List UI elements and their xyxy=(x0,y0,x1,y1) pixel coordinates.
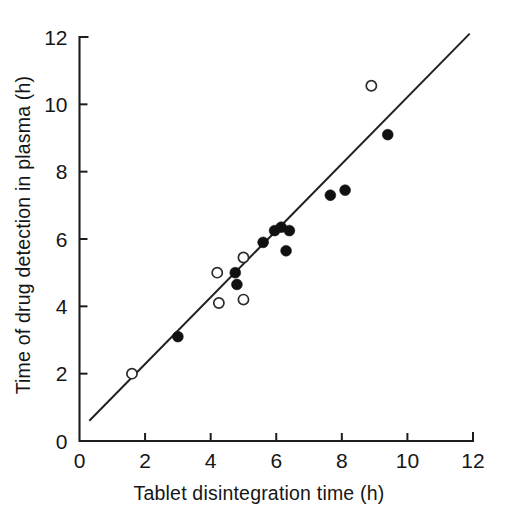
y-tick-label: 2 xyxy=(56,362,68,385)
axis-spines xyxy=(80,37,474,441)
data-point-filled xyxy=(382,129,393,140)
y-tick-label: 4 xyxy=(56,295,68,318)
x-axis-tick-labels: 024681012 xyxy=(74,449,485,472)
y-tick-label: 0 xyxy=(56,430,68,453)
y-axis-title: Time of drug detection in plasma (h) xyxy=(12,76,34,395)
data-point-open xyxy=(366,81,376,91)
data-point-filled xyxy=(284,225,295,236)
x-tick-label: 6 xyxy=(270,449,282,472)
data-point-open xyxy=(214,298,224,308)
x-tick-label: 2 xyxy=(139,449,151,472)
x-axis-title: Tablet disintegration time (h) xyxy=(134,482,385,504)
y-tick-label: 8 xyxy=(56,160,68,183)
scatter-plot-figure: 024681012 024681012 Tablet disintegratio… xyxy=(0,0,517,518)
data-point-open xyxy=(127,369,137,379)
data-point-open xyxy=(238,252,248,262)
data-point-filled xyxy=(230,267,241,278)
x-tick-label: 12 xyxy=(461,449,484,472)
y-tick-label: 6 xyxy=(56,228,68,251)
data-point-filled xyxy=(325,190,336,201)
y-tick-label: 10 xyxy=(44,93,67,116)
axes xyxy=(80,37,474,441)
x-tick-label: 8 xyxy=(336,449,348,472)
plot-canvas: 024681012 024681012 Tablet disintegratio… xyxy=(0,0,517,518)
data-point-filled xyxy=(258,237,269,248)
tick-marks xyxy=(80,104,408,441)
x-tick-label: 4 xyxy=(205,449,217,472)
data-points xyxy=(127,81,393,379)
x-tick-label: 0 xyxy=(74,449,86,472)
data-point-open xyxy=(238,295,248,305)
data-point-filled xyxy=(281,245,292,256)
data-point-open xyxy=(212,268,222,278)
y-axis-tick-labels: 024681012 xyxy=(44,26,68,453)
y-tick-label: 12 xyxy=(44,26,67,49)
x-tick-label: 10 xyxy=(396,449,419,472)
data-point-filled xyxy=(232,279,243,290)
data-point-filled xyxy=(172,331,183,342)
data-point-filled xyxy=(340,185,351,196)
